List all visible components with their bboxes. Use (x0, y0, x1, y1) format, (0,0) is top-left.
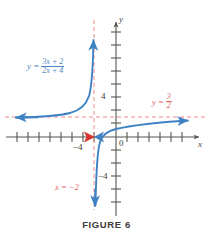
figure-caption: FIGURE 6 (0, 219, 213, 230)
ha-denominator: 2 (166, 101, 172, 110)
ha-label-fraction: 3 2 (166, 93, 172, 111)
red-approach-arrow (56, 132, 95, 143)
blue-approach-arrow (94, 132, 114, 143)
y-tick-label-4: 4 (101, 92, 106, 101)
function-numerator: 3x + 2 (41, 58, 64, 66)
figure-container: y = 3x + 2 2x + 4 y = 3 2 x = −2 y x 0 −… (0, 0, 213, 242)
x-tick-label-neg4: −4 (73, 143, 83, 152)
origin-label: 0 (119, 139, 124, 148)
function-equation-label: y = 3x + 2 2x + 4 (27, 58, 64, 76)
function-equation-fraction: 3x + 2 2x + 4 (41, 58, 64, 76)
ha-label-lhs: y = (152, 98, 164, 107)
function-denominator: 2x + 4 (41, 66, 64, 75)
curve-right-branch (96, 121, 189, 206)
y-axis-label: y (119, 15, 123, 24)
vertical-asymptote-label: x = −2 (55, 183, 79, 192)
function-equation-lhs: y = (27, 62, 39, 71)
ha-numerator: 3 (166, 93, 172, 101)
graph-canvas (0, 0, 213, 242)
y-tick-label-neg4: −4 (98, 172, 108, 181)
x-axis-label: x (198, 140, 202, 149)
y-axis (111, 22, 121, 216)
curve-left-branch (16, 40, 94, 118)
horizontal-asymptote-label: y = 3 2 (152, 93, 172, 111)
